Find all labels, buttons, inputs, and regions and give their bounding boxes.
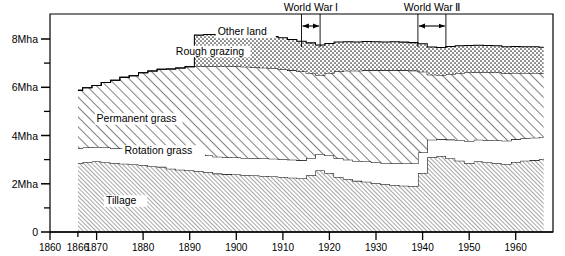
y-axis: 02Mha4Mha6Mha8Mha — [12, 33, 50, 238]
band-label-tillage: Tillage — [104, 194, 147, 207]
x-tick-label: 1920 — [318, 242, 341, 253]
x-tick-label: 1930 — [365, 242, 388, 253]
world-war-2-annotation: World War Ⅱ — [404, 1, 460, 47]
x-tick-label: 1880 — [132, 242, 155, 253]
y-tick-label: 4Mha — [12, 130, 38, 142]
world-war-2-label: World War Ⅱ — [404, 1, 460, 13]
stacked-bands — [78, 34, 544, 232]
svg-text:Rotation grass: Rotation grass — [125, 144, 193, 156]
x-tick-label: 1940 — [411, 242, 434, 253]
war-annotations: World War IWorld War Ⅱ — [284, 1, 460, 47]
y-tick-label: 0 — [32, 226, 38, 238]
svg-text:Tillage: Tillage — [106, 194, 137, 206]
x-tick-label: 1960 — [505, 242, 528, 253]
land-use-stacked-area-chart: TillageRotation grassPermanent grassRoug… — [0, 0, 565, 256]
y-tick-label: 8Mha — [12, 33, 38, 45]
chart-container: TillageRotation grassPermanent grassRoug… — [0, 0, 565, 256]
x-axis: 1860186618701880189019001910192019301940… — [39, 232, 527, 253]
svg-text:Rough grazing: Rough grazing — [176, 45, 244, 57]
band-label-other-land: Other land — [216, 25, 276, 38]
x-tick-label: 1860 — [39, 242, 62, 253]
world-war-1-label: World War I — [284, 1, 338, 13]
y-tick-label: 6Mha — [12, 81, 38, 93]
x-tick-label: 1870 — [85, 242, 108, 253]
x-tick-label: 1910 — [272, 242, 295, 253]
y-tick-label: 2Mha — [12, 178, 38, 190]
x-tick-label: 1900 — [225, 242, 248, 253]
x-tick-label: 1950 — [458, 242, 481, 253]
svg-text:Other land: Other land — [218, 25, 267, 37]
band-label-rotation-grass: Rotation grass — [123, 144, 205, 157]
band-label-rough-grazing: Rough grazing — [174, 45, 251, 58]
band-label-permanent-grass: Permanent grass — [95, 112, 183, 125]
svg-text:Permanent grass: Permanent grass — [97, 112, 177, 124]
x-tick-label: 1890 — [179, 242, 202, 253]
